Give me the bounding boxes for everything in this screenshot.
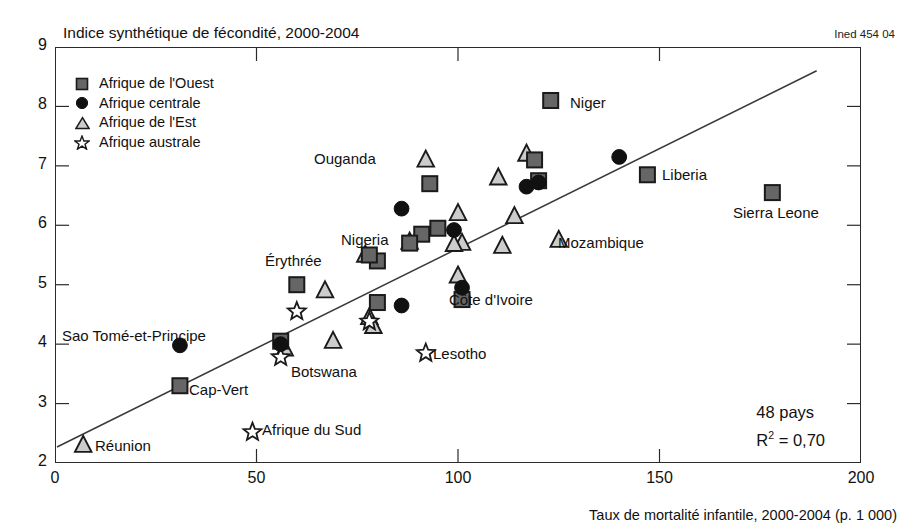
filled-square-icon — [72, 75, 92, 92]
legend-label-est: Afrique de l'Est — [99, 113, 196, 133]
y-tick-label: 9 — [17, 36, 47, 54]
legend-label-australe: Afrique australe — [99, 133, 201, 153]
y-tick-label: 3 — [17, 393, 47, 411]
legend-item-est: Afrique de l'Est — [72, 113, 214, 133]
point-label: Nigeria — [341, 231, 389, 248]
point-label: Érythrée — [265, 252, 322, 269]
stats-annotation: 48 pays R2 = 0,70 — [756, 401, 825, 452]
x-tick-label: 50 — [232, 469, 282, 487]
filled-circle-icon — [72, 95, 92, 112]
point-label: Mozambique — [558, 234, 644, 251]
x-tick-label: 100 — [433, 469, 483, 487]
y-tick-label: 7 — [17, 155, 47, 173]
x-tick-label: 150 — [635, 469, 685, 487]
x-axis-title: Taux de mortalité infantile, 2000-2004 (… — [589, 507, 897, 523]
x-tick-label: 0 — [30, 469, 80, 487]
legend-item-centrale: Afrique centrale — [72, 94, 214, 114]
legend-item-ouest: Afrique de l'Ouest — [72, 74, 214, 94]
x-tick-label: 200 — [836, 469, 886, 487]
point-label: Botswana — [291, 363, 357, 380]
legend-label-centrale: Afrique centrale — [99, 94, 201, 114]
scatter-chart: Indice synthétique de fécondité, 2000-20… — [0, 0, 907, 529]
triangle-icon — [72, 114, 92, 131]
point-label: Lesotho — [433, 345, 486, 362]
point-label: Liberia — [662, 166, 707, 183]
point-label: Sierra Leone — [733, 204, 819, 221]
point-label: Cap-Vert — [189, 381, 248, 398]
legend-item-australe: Afrique australe — [72, 133, 214, 153]
star-outline-icon — [72, 134, 92, 151]
point-label: Afrique du Sud — [262, 421, 361, 438]
r-squared-value: R2 = 0,70 — [756, 424, 825, 452]
y-tick-label: 6 — [17, 214, 47, 232]
point-label: Réunion — [95, 437, 151, 454]
point-label: Niger — [570, 94, 606, 111]
y-tick-label: 2 — [17, 452, 47, 470]
legend-label-ouest: Afrique de l'Ouest — [99, 74, 214, 94]
countries-count: 48 pays — [756, 401, 825, 424]
point-label: Ouganda — [314, 150, 376, 167]
y-tick-label: 8 — [17, 95, 47, 113]
point-label: Sao Tomé-et-Principe — [62, 327, 206, 344]
chart-legend: Afrique de l'Ouest Afrique centrale Afri… — [72, 74, 214, 152]
y-tick-label: 5 — [17, 274, 47, 292]
point-label: Côte d'Ivoire — [449, 291, 533, 308]
y-tick-label: 4 — [17, 333, 47, 351]
